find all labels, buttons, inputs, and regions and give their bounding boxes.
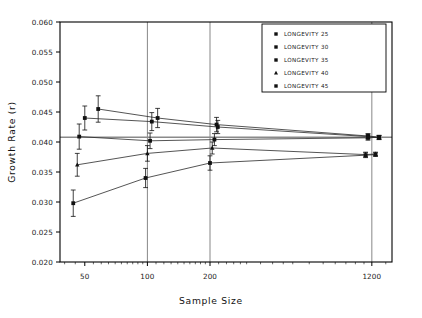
y-tick-label: 0.020 (32, 258, 54, 267)
x-axis-title: Sample Size (179, 295, 243, 306)
legend-marker-square-icon (274, 32, 277, 35)
y-tick-label: 0.060 (32, 18, 54, 27)
y-axis-title: Growth Rate (r) (6, 101, 17, 183)
legend-marker-square-icon (274, 58, 277, 61)
x-tick-label: 50 (80, 272, 90, 281)
data-point-marker (77, 135, 81, 139)
x-tick-label: 1200 (362, 272, 381, 281)
y-tick-label: 0.025 (32, 228, 53, 237)
x-tick-label: 100 (140, 272, 154, 281)
x-tick-label: 200 (203, 272, 217, 281)
legend-item-label: LONGEVITY 30 (284, 44, 329, 50)
growth-rate-scatter-chart: 0.0200.0250.0300.0350.0400.0450.0500.055… (0, 0, 422, 318)
data-point-marker (150, 120, 154, 124)
data-point-marker (208, 161, 212, 165)
data-point-marker (366, 136, 370, 140)
data-point-marker (213, 138, 217, 142)
y-tick-label: 0.055 (32, 48, 53, 57)
y-tick-label: 0.050 (32, 78, 54, 87)
data-point-marker (364, 153, 368, 157)
data-point-marker (71, 201, 75, 205)
legend-marker-square-icon (274, 45, 277, 48)
y-axis-tick-labels: 0.0200.0250.0300.0350.0400.0450.0500.055… (32, 18, 54, 267)
legend-item-label: LONGEVITY 45 (284, 83, 329, 89)
legend-marker-square-icon (274, 84, 277, 87)
y-tick-label: 0.045 (32, 108, 53, 117)
data-point-marker (216, 125, 220, 129)
legend-item-label: LONGEVITY 35 (284, 57, 329, 63)
y-tick-label: 0.030 (32, 198, 54, 207)
data-point-marker (148, 139, 152, 143)
legend-item-label: LONGEVITY 25 (284, 31, 329, 37)
legend-item-label: LONGEVITY 40 (284, 70, 329, 76)
data-point-marker (156, 116, 160, 120)
data-point-marker (83, 116, 87, 120)
data-point-marker (377, 135, 381, 139)
y-tick-label: 0.035 (32, 168, 53, 177)
y-tick-label: 0.040 (32, 138, 54, 147)
data-point-marker (144, 176, 148, 180)
legend: LONGEVITY 25LONGEVITY 30LONGEVITY 35LONG… (262, 24, 386, 92)
chart-container: 0.0200.0250.0300.0350.0400.0450.0500.055… (0, 0, 422, 318)
data-point-marker (374, 153, 378, 157)
data-point-marker (96, 107, 100, 111)
